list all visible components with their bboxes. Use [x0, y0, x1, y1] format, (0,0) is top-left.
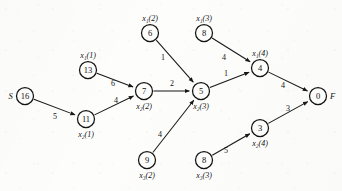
node-value-n9: 9	[145, 155, 149, 165]
node-n8b[interactable]: 8x₃(3)	[195, 152, 212, 180]
node-value-n11: 11	[82, 114, 90, 124]
node-side-label-F: F	[329, 91, 336, 101]
edge-n8a-to-n4	[212, 38, 250, 62]
node-value-S: 16	[21, 91, 30, 101]
node-n11[interactable]: 11x₂(1)	[77, 111, 94, 139]
edge-weight-n7-n5: 2	[170, 79, 174, 88]
node-F[interactable]: 0F	[310, 88, 336, 105]
node-tag-n8b: x₃(3)	[195, 171, 212, 180]
edge-weight-S-n11: 5	[53, 112, 57, 121]
nodes-layer: 16S13x₁(1)11x₂(1)6x₁(2)7x₂(2)9x₃(2)8x₁(3…	[8, 14, 336, 180]
node-value-n6: 6	[148, 28, 152, 38]
node-tag-n8a: x₁(3)	[195, 14, 212, 23]
node-n6[interactable]: 6x₁(2)	[141, 14, 158, 42]
edge-weight-n9-n5: 4	[158, 130, 162, 139]
edge-n5-to-n4	[210, 72, 249, 87]
edge-n8b-to-n3	[212, 134, 250, 155]
edge-weight-n11-n7: 4	[114, 96, 118, 105]
node-value-F: 0	[316, 91, 320, 101]
node-side-label-S: S	[8, 91, 13, 101]
node-n4[interactable]: 4x₁(4)	[251, 49, 268, 77]
node-tag-n4: x₁(4)	[251, 49, 268, 58]
node-n5[interactable]: 5x₂(3)	[192, 83, 209, 111]
edge-weight-n6-n5: 1	[161, 53, 165, 62]
node-value-n5: 5	[199, 86, 203, 96]
node-tag-n9: x₃(2)	[138, 171, 155, 180]
edge-weight-n3-F: 3	[286, 104, 290, 113]
node-n9[interactable]: 9x₃(2)	[138, 152, 155, 180]
edge-n4-to-F	[269, 72, 308, 91]
node-n8a[interactable]: 8x₁(3)	[195, 14, 212, 42]
graph-canvas: 56412441543 16S13x₁(1)11x₂(1)6x₁(2)7x₂(2…	[0, 0, 342, 191]
edge-weight-n5-n4: 1	[224, 69, 228, 78]
edge-weight-n4-F: 4	[281, 81, 285, 90]
edge-n9-to-n5	[153, 100, 194, 152]
edge-weight-n8a-n4: 4	[222, 53, 226, 62]
node-value-n7: 7	[142, 86, 146, 96]
node-tag-n13: x₁(1)	[79, 51, 96, 60]
node-n7[interactable]: 7x₂(2)	[135, 83, 152, 111]
node-n13[interactable]: 13x₁(1)	[79, 51, 96, 79]
node-value-n8a: 8	[202, 28, 206, 38]
network-diagram: 56412441543 16S13x₁(1)11x₂(1)6x₁(2)7x₂(2…	[0, 0, 342, 191]
node-n3[interactable]: 3x₂(4)	[251, 120, 268, 148]
node-tag-n7: x₂(2)	[135, 102, 152, 111]
node-tag-n6: x₁(2)	[141, 14, 158, 23]
node-tag-n11: x₂(1)	[77, 130, 94, 139]
node-value-n3: 3	[258, 123, 262, 133]
node-value-n8b: 8	[202, 155, 206, 165]
node-S[interactable]: 16S	[8, 88, 33, 105]
node-tag-n5: x₂(3)	[192, 102, 209, 111]
node-value-n13: 13	[84, 65, 93, 75]
node-tag-n3: x₂(4)	[251, 139, 268, 148]
edge-weight-n8b-n3: 5	[224, 146, 228, 155]
edge-weight-n13-n7: 6	[111, 79, 115, 88]
